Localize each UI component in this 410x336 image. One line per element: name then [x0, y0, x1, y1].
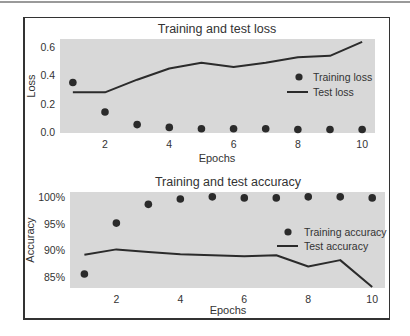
data-point	[133, 121, 141, 129]
legend-label-test-loss: Test loss	[313, 86, 354, 98]
x-tick-label: 6	[231, 138, 237, 150]
accuracy-x-axis-label: Epochs	[210, 304, 247, 316]
legend-label-training-loss: Training loss	[313, 71, 372, 83]
data-point	[177, 195, 185, 203]
data-point	[294, 126, 302, 134]
accuracy-chart: Training and test accuracy 24681085%90%9…	[24, 175, 387, 316]
legend-dot-icon	[295, 73, 302, 80]
data-point	[198, 125, 206, 133]
data-point	[262, 125, 270, 133]
charts-canvas: Training and test loss 2468100.00.20.40.…	[0, 0, 410, 336]
y-tick-label: 100%	[38, 191, 65, 203]
y-tick-label: 0.6	[40, 41, 55, 53]
y-tick-label: 95%	[44, 218, 65, 230]
loss-x-axis-label: Epochs	[199, 152, 236, 164]
y-tick-label: 0.2	[40, 98, 55, 110]
data-point	[101, 108, 109, 116]
x-tick-label: 8	[295, 138, 301, 150]
data-point	[272, 194, 280, 202]
y-tick-label: 90%	[44, 244, 65, 256]
data-point	[368, 194, 376, 202]
data-point	[304, 193, 312, 201]
data-point	[358, 126, 366, 134]
accuracy-chart-title: Training and test accuracy	[155, 175, 302, 189]
x-tick-label: 2	[113, 293, 119, 305]
data-point	[145, 201, 153, 209]
data-point	[326, 126, 334, 134]
data-point	[69, 79, 77, 87]
accuracy-y-axis-label: Accuracy	[24, 217, 36, 263]
data-point	[165, 124, 173, 132]
x-tick-label: 4	[166, 138, 172, 150]
loss-chart-title: Training and test loss	[158, 22, 276, 36]
x-tick-label: 10	[366, 293, 378, 305]
y-tick-label: 85%	[44, 271, 65, 283]
y-tick-label: 0.4	[40, 69, 55, 81]
loss-y-axis-label: Loss	[25, 74, 37, 98]
y-tick-label: 0.0	[40, 126, 55, 138]
legend-dot-icon	[284, 228, 291, 235]
x-tick-label: 4	[177, 293, 183, 305]
data-point	[81, 270, 89, 278]
data-point	[113, 219, 121, 227]
data-point	[209, 193, 217, 201]
x-tick-label: 8	[305, 293, 311, 305]
legend-label-training-accuracy: Training accuracy	[304, 226, 387, 238]
x-tick-label: 10	[356, 138, 368, 150]
data-point	[240, 194, 248, 202]
data-point	[230, 125, 238, 133]
legend-label-test-accuracy: Test accuracy	[304, 240, 369, 252]
data-point	[336, 193, 344, 201]
loss-chart: Training and test loss 2468100.00.20.40.…	[25, 22, 375, 164]
x-tick-label: 2	[102, 138, 108, 150]
